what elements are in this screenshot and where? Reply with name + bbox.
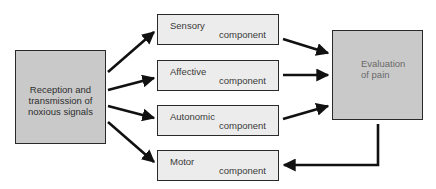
sensory-label: Sensory (170, 20, 205, 31)
evaluation-box: Evaluation of pain (332, 30, 423, 120)
source-label-line-1: Reception and (16, 84, 105, 95)
source-label-line-2: transmission of (16, 95, 105, 106)
affective-label: Affective (170, 66, 206, 77)
arrow-source-to-sensory (108, 32, 154, 72)
motor-label: Motor (170, 156, 194, 167)
motor-component-box: Motor component (157, 150, 279, 181)
source-label: Reception and transmission of noxious si… (16, 84, 105, 117)
arrow-source-to-affective (108, 78, 154, 90)
evaluation-label-line-1: Evaluation (361, 58, 405, 69)
sensory-component-box: Sensory component (157, 14, 279, 45)
arrow-source-to-autonomic (108, 106, 154, 118)
autonomic-suffix: component (219, 120, 266, 131)
source-label-line-3: noxious signals (16, 106, 105, 117)
autonomic-component-box: Autonomic component (157, 105, 279, 136)
autonomic-label: Autonomic (170, 111, 215, 122)
arrow-evaluation-to-motor (284, 124, 378, 165)
affective-component-box: Affective component (157, 60, 279, 91)
arrow-source-to-motor (108, 122, 154, 162)
evaluation-label: Evaluation of pain (361, 58, 405, 80)
arrow-autonomic-to-evaluation (283, 106, 328, 119)
sensory-suffix: component (219, 29, 266, 40)
source-box: Reception and transmission of noxious si… (15, 50, 106, 144)
affective-suffix: component (219, 75, 266, 86)
arrow-sensory-to-evaluation (283, 39, 328, 53)
evaluation-label-line-2: of pain (361, 69, 405, 80)
motor-suffix: component (219, 165, 266, 176)
